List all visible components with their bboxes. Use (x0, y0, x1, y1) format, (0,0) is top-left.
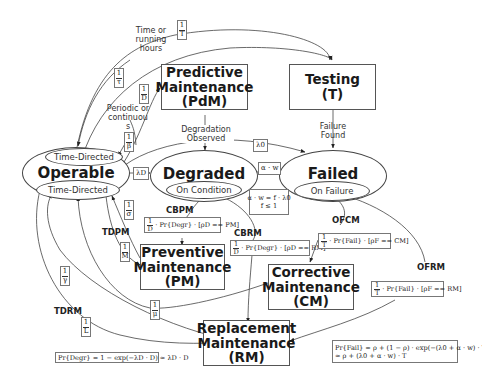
operable-top-time-directed: Time-Directed (45, 148, 123, 166)
formula-cbpm: 1D · Pr{Degr} · [ρD == PM] (144, 217, 221, 233)
rate-alpha-w: α · w (258, 162, 281, 175)
formula-pr-degr: Pr{Degr} = 1 − exp(−λD · D) ≈ λD · D (55, 352, 159, 363)
rate-one-over-tau: 1τ (114, 68, 124, 88)
formula-ofrm: 1T · Pr{Fail} · [ρF == RM] (371, 281, 444, 297)
formula-pr-fail: Pr{Fail} = ρ + (1 − ρ) · exp(−(λ0 + α · … (332, 340, 458, 363)
tag-cbrm: CBRM (234, 228, 262, 238)
rate-one-over-L: 1L (81, 317, 91, 337)
tag-ofcm: OFCM (332, 215, 360, 225)
degraded-on-condition: On Condition (166, 181, 242, 199)
rate-one-over-M: 1M (120, 242, 130, 262)
maintenance-state-diagram: Operable Time-Directed Time-Directed Deg… (0, 0, 482, 383)
tag-ofrm: OFRM (417, 262, 445, 272)
tag-tdpm: TDPM (102, 227, 130, 237)
operable-bottom-time-directed: Time-Directed (36, 180, 120, 200)
rate-one-over-gamma: 1γ (60, 266, 70, 286)
label-time-running-hours: Time or running hours (132, 26, 170, 54)
rate-one-over-mu: 1μ (150, 300, 160, 320)
box-corrective-maintenance: Corrective Maintenance (CM) (268, 264, 354, 310)
rate-one-over-D: 1D (139, 84, 149, 104)
edge-failed-rm (340, 194, 425, 262)
formula-cbrm: 1D · Pr{Degr} · [ρD == RM] (230, 240, 310, 256)
box-preventive-maintenance: Preventive Maintenance (PM) (140, 244, 225, 290)
label-periodic-continuous: Periodic or continuou s (106, 104, 150, 132)
rate-lambda-0: λ0 (253, 139, 268, 152)
formula-alpha-w-definition: α · w = f · λ0 f ≤ 1 (249, 189, 289, 215)
rate-one-over-T: 1T (177, 20, 187, 40)
formula-ofcm: 1T · Pr{Fail} · [ρF == CM] (318, 233, 391, 249)
failed-on-failure: On Failure (294, 181, 370, 201)
tag-tdrm: TDRM (54, 306, 82, 316)
rate-one-over-beta: 1β (124, 132, 134, 152)
label-degradation-observed: Degradation Observed (178, 125, 234, 143)
rate-lambda-d: λD (133, 167, 149, 180)
box-replacement-maintenance: Replacement Maintenance (RM) (203, 320, 290, 366)
tag-cbpm: CBPM (166, 205, 193, 215)
box-predictive-maintenance: Predictive Maintenance (PdM) (161, 64, 248, 110)
box-testing: Testing (T) (289, 64, 376, 110)
rate-one-over-sigma: 1σ (124, 200, 134, 220)
label-failure-found: Failure Found (313, 122, 353, 140)
